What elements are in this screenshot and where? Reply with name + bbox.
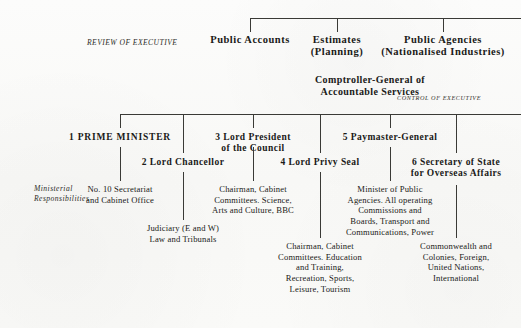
- office-secretary-of-state-title: 6 Secretary of State for Overseas Affair…: [411, 157, 502, 178]
- responsibility-line: Chairman, Cabinet: [212, 184, 294, 195]
- office-prime-minister-title: 1 PRIME MINISTER: [69, 132, 171, 143]
- committee-public-accounts-label: Public Accounts: [210, 34, 290, 46]
- drop-prime-minister: [120, 114, 121, 128]
- responsibility-line: Chairman, Cabinet: [278, 241, 362, 252]
- responsibility-line: Leisure, Tourism: [278, 284, 362, 295]
- office-lord-privy-seal-name: Lord Privy Seal: [288, 157, 359, 167]
- responsibility-line: United Nations,: [420, 262, 492, 273]
- stem-paymaster-general-responsibilities: [390, 147, 391, 181]
- review-of-executive-label: REVIEW OF EXECUTIVE: [87, 38, 177, 48]
- responsibilities-lord-chancellor: Judiciary (E and W) Law and Tribunals: [147, 223, 219, 244]
- office-lord-privy-seal-number: 4: [280, 157, 285, 167]
- office-lord-chancellor-number: 2: [142, 157, 147, 167]
- responsibility-line: Law and Tribunals: [147, 234, 219, 245]
- office-lord-president-label: 3 Lord President: [215, 132, 291, 143]
- responsibility-line: Commonwealth and: [420, 241, 492, 252]
- ministerial-responsibilities-line1: Ministerial: [34, 184, 89, 194]
- responsibility-line: Arts and Culture, BBC: [212, 205, 294, 216]
- responsibility-line: Communications, Power: [346, 227, 434, 238]
- responsibilities-paymaster-general: Minister of Public Agencies. All operati…: [346, 184, 434, 237]
- responsibilities-secretary-of-state: Commonwealth and Colonies, Foreign, Unit…: [420, 241, 492, 284]
- responsibility-line: Colonies, Foreign,: [420, 252, 492, 263]
- review-of-executive-text: REVIEW OF EXECUTIVE: [87, 38, 177, 48]
- stem-lord-chancellor-responsibilities: [183, 172, 184, 220]
- stem-secretary-of-state-responsibilities: [456, 185, 457, 238]
- office-paymaster-general-title: 5 Paymaster-General: [343, 132, 437, 143]
- committee-estimates-sublabel: (Planning): [311, 46, 363, 58]
- comptroller-general-line1: Comptroller-General of: [315, 74, 425, 86]
- responsibility-line: International: [420, 273, 492, 284]
- responsibility-line: Boards, Transport and: [346, 216, 434, 227]
- control-of-executive-text: CONTROL OF EXECUTIVE: [397, 95, 481, 102]
- responsibility-line: Recreation, Sports,: [278, 273, 362, 284]
- committee-public-accounts: Public Accounts: [210, 34, 290, 46]
- office-lord-privy-seal-title: 4 Lord Privy Seal: [280, 157, 359, 168]
- committee-estimates-label: Estimates: [311, 34, 363, 46]
- top-drop-public-agencies: [443, 18, 444, 32]
- office-lord-chancellor-name: Lord Chancellor: [150, 157, 225, 167]
- control-of-executive-label: CONTROL OF EXECUTIVE: [397, 95, 481, 102]
- office-secretary-of-state-name: Secretary of State: [420, 157, 500, 167]
- office-lord-chancellor-label: 2 Lord Chancellor: [142, 157, 225, 168]
- drop-lord-chancellor: [183, 114, 184, 153]
- stem-prime-minister-responsibilities: [120, 147, 121, 181]
- drop-lord-president: [253, 114, 254, 128]
- drop-secretary-of-state: [456, 114, 457, 153]
- drop-lord-privy-seal: [320, 114, 321, 153]
- responsibility-line: Minister of Public: [346, 184, 434, 195]
- responsibility-line: Agencies. All operating: [346, 195, 434, 206]
- office-lord-chancellor-title: 2 Lord Chancellor: [142, 157, 225, 168]
- responsibility-line: Judiciary (E and W): [147, 223, 219, 234]
- office-prime-minister-name: PRIME MINISTER: [78, 132, 171, 142]
- drop-paymaster-general: [390, 114, 391, 128]
- office-secretary-of-state-name-line2: for Overseas Affairs: [411, 168, 502, 179]
- office-secretary-of-state-number: 6: [412, 157, 417, 167]
- responsibility-line: Committees. Science,: [212, 195, 294, 206]
- office-prime-minister-number: 1: [69, 132, 75, 142]
- committee-public-agencies: Public Agencies (Nationalised Industries…: [381, 34, 505, 58]
- responsibility-line: and Training,: [278, 262, 362, 273]
- responsibility-line: No. 10 Secretariat: [86, 184, 154, 195]
- responsibility-line: and Cabinet Office: [86, 195, 154, 206]
- responsibility-line: Commissions and: [346, 205, 434, 216]
- office-lord-privy-seal-label: 4 Lord Privy Seal: [280, 157, 359, 168]
- committee-estimates: Estimates (Planning): [311, 34, 363, 58]
- stem-lord-privy-seal-responsibilities: [320, 172, 321, 238]
- office-prime-minister-label: 1 PRIME MINISTER: [69, 132, 171, 143]
- committee-public-agencies-label: Public Agencies: [381, 34, 505, 46]
- office-paymaster-general-name: Paymaster-General: [351, 132, 437, 142]
- top-drop-public-accounts: [250, 18, 251, 32]
- office-lord-president-name: Lord President: [223, 132, 291, 142]
- responsibilities-lord-privy-seal: Chairman, Cabinet Committees. Education …: [278, 241, 362, 294]
- responsibilities-prime-minister: No. 10 Secretariat and Cabinet Office: [86, 184, 154, 205]
- ministerial-responsibilities-line2: Responsibilities: [34, 194, 89, 204]
- office-lord-president-number: 3: [215, 132, 220, 142]
- responsibility-line: Committees. Education: [278, 252, 362, 263]
- office-paymaster-general-number: 5: [343, 132, 348, 142]
- stem-lord-president-responsibilities: [253, 147, 254, 181]
- committee-public-agencies-sublabel: (Nationalised Industries): [381, 46, 505, 58]
- top-drop-estimates: [337, 18, 338, 32]
- ministerial-responsibilities-label: Ministerial Responsibilities: [34, 184, 89, 204]
- responsibilities-lord-president: Chairman, Cabinet Committees. Science, A…: [212, 184, 294, 216]
- top-connector-bar: [250, 18, 521, 19]
- office-secretary-of-state-label: 6 Secretary of State: [411, 157, 502, 168]
- office-paymaster-general-label: 5 Paymaster-General: [343, 132, 437, 143]
- org-chart-diagram: Public Accounts Estimates (Planning) Pub…: [0, 0, 521, 328]
